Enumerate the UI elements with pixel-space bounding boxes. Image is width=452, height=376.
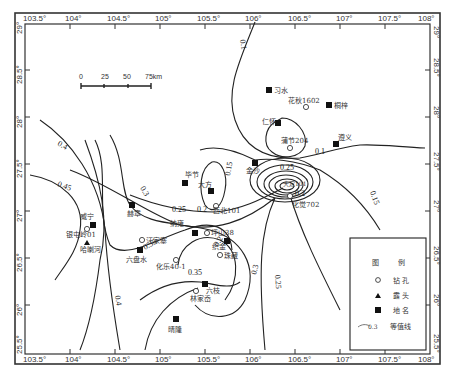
svg-text:坪山38: 坪山38 bbox=[211, 228, 234, 237]
svg-text:0.45: 0.45 bbox=[56, 179, 72, 192]
svg-text:105.5°: 105.5° bbox=[197, 355, 220, 364]
svg-text:28.5°: 28.5° bbox=[432, 58, 441, 77]
svg-text:106.5°: 106.5° bbox=[288, 355, 311, 364]
svg-text:107.5°: 107.5° bbox=[378, 14, 401, 23]
svg-text:107.5°: 107.5° bbox=[378, 355, 401, 364]
svg-text:103.5°: 103.5° bbox=[23, 355, 46, 364]
svg-text:105°: 105° bbox=[155, 14, 172, 23]
svg-text:105°: 105° bbox=[155, 355, 172, 364]
svg-text:汪家寨: 汪家寨 bbox=[146, 236, 167, 245]
scale-bar: 0 25 50 75km bbox=[79, 73, 162, 89]
svg-text:0.15: 0.15 bbox=[368, 190, 381, 206]
svg-text:104°: 104° bbox=[65, 14, 82, 23]
left-axis: 29° 28.5° 28° 27.5° 27° 26.5° 26° 25.5° bbox=[15, 22, 30, 354]
svg-text:银屯岭01: 银屯岭01 bbox=[66, 230, 96, 239]
svg-text:纳雍: 纳雍 bbox=[170, 219, 184, 228]
svg-text:107°: 107° bbox=[336, 355, 353, 364]
svg-text:例: 例 bbox=[398, 258, 405, 267]
svg-text:104.5°: 104.5° bbox=[107, 355, 130, 364]
svg-text:0.2: 0.2 bbox=[295, 189, 305, 198]
svg-text:等值线: 等值线 bbox=[390, 322, 411, 331]
svg-text:105.5°: 105.5° bbox=[197, 14, 220, 23]
svg-text:仁怀: 仁怀 bbox=[262, 117, 276, 126]
svg-text:104.5°: 104.5° bbox=[107, 14, 130, 23]
svg-text:108°: 108° bbox=[418, 355, 435, 364]
right-axis: 29° 28.5° 28° 27.5° 27° 26.5° 26° 25.5° bbox=[425, 26, 441, 353]
svg-text:104°: 104° bbox=[65, 355, 82, 364]
contour-map: 103.5° 104° 104.5° 105° 105.5° 106° 106.… bbox=[0, 0, 452, 376]
svg-text:珠藏: 珠藏 bbox=[224, 251, 238, 260]
svg-text:107°: 107° bbox=[336, 14, 353, 23]
svg-text:28°: 28° bbox=[432, 106, 441, 118]
svg-text:威宁: 威宁 bbox=[80, 212, 94, 221]
svg-text:27°: 27° bbox=[15, 210, 24, 222]
svg-text:0.15: 0.15 bbox=[223, 161, 234, 176]
bottom-axis: 103.5° 104° 104.5° 105° 105.5° 106° 106.… bbox=[23, 349, 435, 364]
svg-text:103.5°: 103.5° bbox=[23, 14, 46, 23]
svg-text:0.25: 0.25 bbox=[273, 274, 283, 289]
svg-text:赫章: 赫章 bbox=[127, 209, 141, 218]
svg-text:106°: 106° bbox=[245, 14, 262, 23]
svg-text:六枝: 六枝 bbox=[206, 286, 220, 295]
svg-text:28.5°: 28.5° bbox=[15, 65, 24, 84]
svg-text:106.5°: 106.5° bbox=[288, 14, 311, 23]
svg-text:0.25: 0.25 bbox=[280, 163, 294, 172]
svg-text:25.5°: 25.5° bbox=[432, 334, 441, 353]
svg-text:六盘水: 六盘水 bbox=[126, 255, 147, 264]
svg-text:0.35: 0.35 bbox=[188, 268, 202, 277]
svg-text:习水: 习水 bbox=[274, 86, 288, 95]
svg-text:29°: 29° bbox=[15, 22, 24, 34]
svg-text:0.3: 0.3 bbox=[249, 264, 260, 276]
svg-text:0.4: 0.4 bbox=[56, 139, 69, 152]
svg-text:地 名: 地 名 bbox=[393, 306, 409, 315]
svg-text:28°: 28° bbox=[15, 116, 24, 128]
svg-text:露 头: 露 头 bbox=[393, 291, 409, 300]
svg-text:106°: 106° bbox=[245, 355, 262, 364]
svg-text:大方: 大方 bbox=[198, 180, 212, 189]
svg-text:钻 孔: 钻 孔 bbox=[393, 276, 409, 285]
svg-text:50: 50 bbox=[123, 73, 131, 80]
svg-text:27.5°: 27.5° bbox=[15, 159, 24, 178]
svg-text:108°: 108° bbox=[418, 14, 435, 23]
svg-text:织金: 织金 bbox=[212, 242, 226, 251]
svg-text:0.3: 0.3 bbox=[368, 323, 378, 330]
svg-text:图: 图 bbox=[372, 259, 379, 267]
svg-text:桐梓: 桐梓 bbox=[334, 101, 348, 110]
legend: 图 例 钻 孔 露 头 地 名 0.3 等值线 bbox=[350, 238, 426, 350]
svg-text:25.5°: 25.5° bbox=[15, 335, 24, 354]
svg-text:25: 25 bbox=[101, 73, 109, 80]
svg-text:花秋1602: 花秋1602 bbox=[288, 96, 320, 105]
svg-text:蒲节204: 蒲节204 bbox=[281, 136, 309, 145]
svg-text:遵义: 遵义 bbox=[338, 133, 352, 142]
svg-text:0.1: 0.1 bbox=[315, 147, 325, 156]
svg-text:化乐40-1: 化乐40-1 bbox=[156, 262, 186, 271]
svg-text:毕节: 毕节 bbox=[185, 170, 199, 179]
svg-text:林家岙: 林家岙 bbox=[190, 294, 211, 303]
borehole-icon bbox=[376, 278, 381, 283]
svg-text:26.5°: 26.5° bbox=[432, 246, 441, 265]
svg-text:化觉702: 化觉702 bbox=[292, 200, 319, 209]
svg-text:29°: 29° bbox=[432, 26, 441, 38]
svg-text:0: 0 bbox=[79, 73, 83, 80]
svg-text:26°: 26° bbox=[432, 294, 441, 306]
svg-text:26.5°: 26.5° bbox=[15, 253, 24, 272]
place-icon bbox=[375, 307, 381, 313]
top-axis: 103.5° 104° 104.5° 105° 105.5° 106° 106.… bbox=[23, 14, 435, 29]
svg-text:哈喇河: 哈喇河 bbox=[80, 245, 101, 254]
svg-text:0.2: 0.2 bbox=[197, 205, 207, 214]
svg-text:0.1: 0.1 bbox=[238, 39, 249, 50]
svg-text:金沙: 金沙 bbox=[246, 166, 260, 175]
svg-text:西北101: 西北101 bbox=[213, 207, 240, 215]
svg-text:晴隆: 晴隆 bbox=[168, 325, 182, 334]
svg-text:大定101: 大定101 bbox=[283, 180, 306, 188]
svg-text:27.5°: 27.5° bbox=[432, 152, 441, 171]
svg-text:75km: 75km bbox=[145, 73, 162, 80]
place-markers: 习水 花秋1602 桐梓 仁怀 蒲节204 遵义 金沙 毕节 大方 西北101 … bbox=[66, 86, 352, 334]
svg-text:0.25: 0.25 bbox=[172, 205, 186, 214]
svg-text:0.3: 0.3 bbox=[138, 185, 151, 198]
svg-text:0.4: 0.4 bbox=[113, 295, 124, 306]
svg-text:27°: 27° bbox=[432, 200, 441, 212]
svg-text:26°: 26° bbox=[15, 304, 24, 316]
